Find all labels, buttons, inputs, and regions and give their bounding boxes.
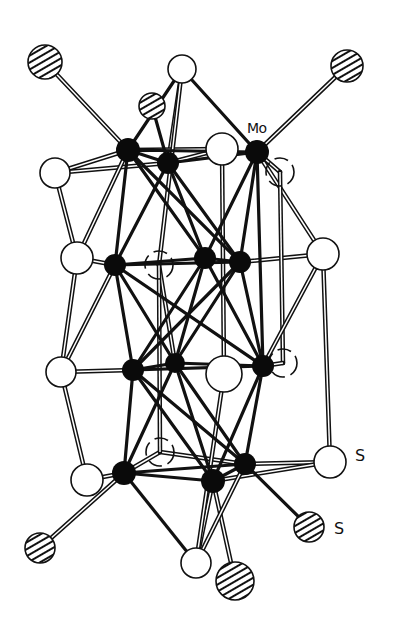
mo-atom xyxy=(194,247,216,269)
bond-solid xyxy=(245,366,263,464)
mo-atom xyxy=(116,138,140,162)
s-bridging-atom xyxy=(40,158,70,188)
s-terminal-atom xyxy=(216,562,254,600)
s-bridging-atom xyxy=(307,238,339,270)
s-terminal-atom xyxy=(331,50,363,82)
s-terminal-atom xyxy=(28,45,62,79)
bond-solid xyxy=(124,473,213,481)
double-line-bonds xyxy=(40,62,347,581)
bond-double xyxy=(45,62,128,150)
s-bridging-atom xyxy=(71,464,103,496)
s-terminal-atom xyxy=(294,512,324,542)
bond-double xyxy=(263,254,323,366)
mo-atom xyxy=(234,453,256,475)
mo-atom xyxy=(122,359,144,381)
label-mo: Mo xyxy=(247,120,267,136)
bond-double xyxy=(323,254,330,462)
mo-atom xyxy=(104,254,126,276)
s-terminal-atom xyxy=(25,533,55,563)
bond-solid xyxy=(124,464,245,473)
s-terminal-atom xyxy=(139,93,165,119)
s-bridging-atom xyxy=(314,446,346,478)
mo-atom xyxy=(245,140,269,164)
mo-sulfide-cluster-diagram xyxy=(0,0,394,635)
mo-atom xyxy=(229,251,251,273)
bond-double xyxy=(257,66,347,152)
label-s-upper: S xyxy=(355,446,365,465)
mo-atom xyxy=(252,355,274,377)
bond-solid xyxy=(168,163,205,258)
s-bridging-atom xyxy=(168,55,196,83)
bond-double xyxy=(159,265,160,452)
mo-atom xyxy=(157,152,179,174)
s-bridging-atom xyxy=(206,356,242,392)
mo-atom xyxy=(165,353,185,373)
mo-atom xyxy=(201,469,225,493)
s-bridging-atom xyxy=(61,242,93,274)
s-bridging-atom xyxy=(181,548,211,578)
s-bridging-atom xyxy=(46,357,76,387)
mo-atom xyxy=(112,461,136,485)
label-s-lower: S xyxy=(334,519,344,538)
bond-solid xyxy=(124,473,196,563)
s-bridging-atom xyxy=(206,133,238,165)
